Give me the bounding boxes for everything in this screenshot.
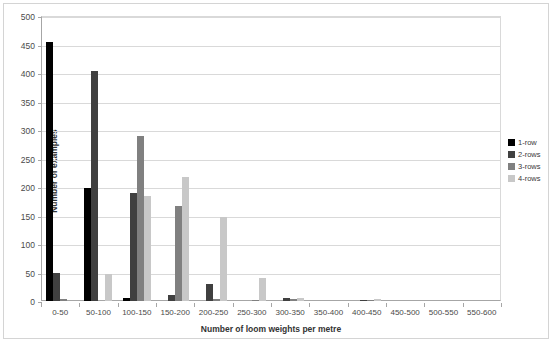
x-axis-tick: [79, 303, 80, 307]
y-axis-tick: [38, 160, 42, 161]
legend-item[interactable]: 1-row: [508, 137, 554, 148]
y-axis-tick-label: 150: [21, 212, 35, 222]
y-axis-tick-label: 350: [21, 98, 35, 108]
legend-swatch-icon: [508, 163, 515, 170]
chart-legend: 1-row2-rows3-rows4-rows: [508, 137, 554, 185]
y-axis-tick: [38, 274, 42, 275]
y-axis-tick-label: 250: [21, 155, 35, 165]
x-axis-tick: [156, 303, 157, 307]
chart-container: Number of examples 500450400350300250200…: [3, 3, 549, 339]
x-axis-tick-label: 350-400: [309, 303, 347, 317]
x-axis-tick-label: 200-250: [194, 303, 232, 317]
x-axis-tick-label: 500-550: [424, 303, 462, 317]
legend-swatch-icon: [508, 139, 515, 146]
y-gridline: [42, 188, 500, 189]
y-axis-tick-label: 400: [21, 69, 35, 79]
y-axis-tick-label: 300: [21, 126, 35, 136]
y-axis-tick: [38, 245, 42, 246]
x-axis-tick: [424, 303, 425, 307]
plot-area: 500450400350300250200150100500: [41, 16, 501, 301]
x-axis-tick-label: 400-450: [348, 303, 386, 317]
x-axis-tick: [309, 303, 310, 307]
y-axis-tick: [38, 103, 42, 104]
legend-item[interactable]: 4-rows: [508, 173, 554, 184]
y-gridline: [42, 217, 500, 218]
y-axis-tick: [38, 131, 42, 132]
x-axis-tick: [271, 303, 272, 307]
y-axis-tick: [38, 74, 42, 75]
x-axis-title: Number of loom weights per metre: [41, 324, 501, 334]
x-axis-tick-label: 300-350: [271, 303, 309, 317]
y-gridline: [42, 74, 500, 75]
y-axis-tick-label: 450: [21, 41, 35, 51]
x-axis-tick-label: 250-300: [233, 303, 271, 317]
legend-label: 2-rows: [518, 150, 541, 159]
y-gridline: [42, 274, 500, 275]
y-axis-tick: [38, 188, 42, 189]
legend-label: 4-rows: [518, 174, 541, 183]
x-axis-tick-label: 100-150: [118, 303, 156, 317]
y-axis-tick-label: 500: [21, 12, 35, 22]
x-axis-tick: [463, 303, 464, 307]
x-axis-tick: [386, 303, 387, 307]
x-axis-tick: [348, 303, 349, 307]
y-gridline: [42, 245, 500, 246]
x-axis-tick: [194, 303, 195, 307]
x-axis-tick-label: 150-200: [156, 303, 194, 317]
y-gridline: [42, 46, 500, 47]
x-axis-tick-label: 550-600: [463, 303, 501, 317]
y-axis-tick-label: 100: [21, 240, 35, 250]
y-axis-tick-label: 0: [30, 297, 35, 307]
x-axis-tick-label: 450-500: [386, 303, 424, 317]
y-axis-tick: [38, 46, 42, 47]
y-gridline: [42, 17, 500, 18]
x-axis-tick-labels: 0-5050-100100-150150-200200-250250-30030…: [41, 303, 501, 317]
legend-item[interactable]: 3-rows: [508, 161, 554, 172]
x-axis-tick: [233, 303, 234, 307]
y-axis-tick: [38, 217, 42, 218]
x-axis-tick: [41, 303, 42, 307]
legend-label: 3-rows: [518, 162, 541, 171]
legend-label: 1-row: [518, 138, 537, 147]
legend-swatch-icon: [508, 151, 515, 158]
x-axis-tick: [118, 303, 119, 307]
legend-item[interactable]: 2-rows: [508, 149, 554, 160]
x-axis-tick-label: 0-50: [41, 303, 79, 317]
y-axis-tick-label: 200: [21, 183, 35, 193]
y-gridline: [42, 103, 500, 104]
x-axis-tick: [501, 303, 502, 307]
y-gridline: [42, 160, 500, 161]
legend-swatch-icon: [508, 175, 515, 182]
x-axis-tick-label: 50-100: [79, 303, 117, 317]
y-gridline: [42, 131, 500, 132]
y-axis-tick-label: 50: [26, 269, 35, 279]
y-axis-tick: [38, 17, 42, 18]
